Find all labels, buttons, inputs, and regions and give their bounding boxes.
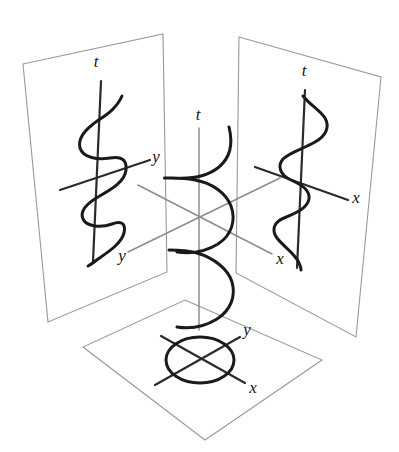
bottom-plane-y-label: y bbox=[241, 320, 251, 339]
left-plane-y-positive-label: y bbox=[150, 147, 160, 166]
bottom-plane-x-label: x bbox=[248, 378, 257, 397]
right-plane-x-negative-label: x bbox=[275, 249, 284, 268]
right-plane-x-positive-label: x bbox=[351, 188, 360, 207]
figure-root: t y y t t x x y x bbox=[0, 0, 399, 452]
left-plane-y-negative-label: y bbox=[116, 246, 126, 265]
center-t-label: t bbox=[196, 105, 202, 124]
helix-projection-diagram: t y y t t x x y x bbox=[0, 0, 399, 452]
bottom-plane-face bbox=[83, 300, 322, 440]
bottom-plane-group bbox=[83, 300, 322, 440]
